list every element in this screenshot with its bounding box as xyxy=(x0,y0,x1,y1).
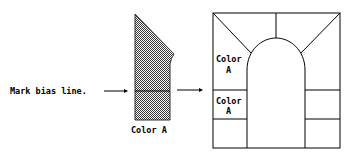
arrow-right-icon xyxy=(104,89,128,93)
mark-bias-line-label: Mark bias line. xyxy=(10,86,87,96)
quilt-pattern-diagram: Mark bias line. Color A Color A Color A xyxy=(0,0,347,158)
fabric-piece-color-a xyxy=(135,14,174,120)
arrow-right-icon xyxy=(177,88,203,92)
upper-panel-label-line2: A xyxy=(226,65,231,75)
lower-panel-label-line2: A xyxy=(226,106,231,116)
arch-block xyxy=(213,13,340,148)
upper-panel-label-line1: Color xyxy=(216,54,242,64)
lower-panel-label-line1: Color xyxy=(216,96,242,106)
piece-color-label: Color A xyxy=(131,125,167,135)
